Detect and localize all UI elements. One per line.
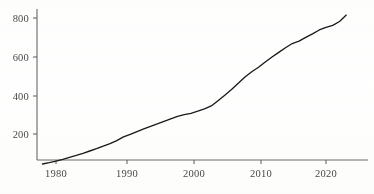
- x-tick-label-2020: 2020: [315, 168, 337, 179]
- x-tick-label-2000: 2000: [183, 168, 205, 179]
- x-tick-label-2010: 2010: [250, 168, 272, 179]
- chart-plot-area: [0, 0, 374, 194]
- x-tick-label-1990: 1990: [116, 168, 138, 179]
- y-tick-label-600: 600: [4, 52, 29, 63]
- y-tick-marks: [33, 18, 37, 134]
- x-tick-label-1980: 1980: [45, 168, 67, 179]
- y-tick-label-400: 400: [4, 91, 29, 102]
- y-tick-label-200: 200: [4, 129, 29, 140]
- x-tick-marks: [56, 160, 326, 164]
- chart-figure: 800 600 400 200 1980 1990 2000 2010 2020: [0, 0, 374, 194]
- data-series-line: [43, 15, 347, 164]
- y-tick-label-800: 800: [4, 13, 29, 24]
